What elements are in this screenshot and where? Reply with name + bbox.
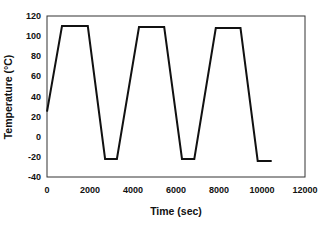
x-tick-label: 10000 <box>249 185 274 195</box>
y-tick-label: 60 <box>31 71 41 81</box>
x-tick-label: 0 <box>44 185 49 195</box>
x-tick-label: 8000 <box>209 185 229 195</box>
y-tick-label: 0 <box>36 132 41 142</box>
y-tick-label: -40 <box>28 172 41 182</box>
temperature-chart: -40-20020406080100120 020004000600080001… <box>0 0 322 225</box>
x-tick-label: 6000 <box>166 185 186 195</box>
y-tick-label: 20 <box>31 112 41 122</box>
y-tick-label: 120 <box>26 11 41 21</box>
y-tick-label: 100 <box>26 31 41 41</box>
plot-area <box>47 16 305 177</box>
y-axis-title: Temperature (°C) <box>2 55 14 140</box>
x-tick-label: 12000 <box>292 185 317 195</box>
y-tick-label: 40 <box>31 92 41 102</box>
y-tick-label: -20 <box>28 152 41 162</box>
x-tick-label: 2000 <box>80 185 100 195</box>
x-tick-label: 4000 <box>123 185 143 195</box>
y-tick-label: 80 <box>31 51 41 61</box>
x-axis-title: Time (sec) <box>150 205 202 217</box>
x-axis-ticks: 020004000600080001000012000 <box>44 185 317 195</box>
y-axis-ticks: -40-20020406080100120 <box>26 11 41 182</box>
